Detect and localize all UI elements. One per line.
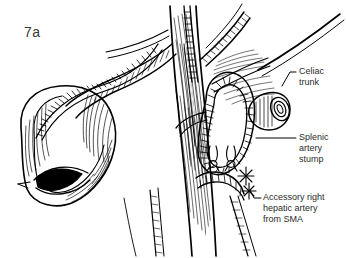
celiac-trunk-cut-end [249,93,293,130]
figure-number-label: 7a [24,24,41,40]
callout-accessory-right-hepatic-artery: Accessory right hepatic artery from SMA [263,192,325,225]
figure-canvas: 7a Celiac trunk Splenic artery stump Acc… [0,0,346,258]
callout-splenic-artery-stump: Splenic artery stump [299,132,329,165]
callout-celiac-trunk: Celiac trunk [299,66,324,88]
duodenal-vessel-arcade [36,44,162,140]
leader-celiac-trunk [282,72,296,86]
duodenum-c-loop [18,44,162,206]
